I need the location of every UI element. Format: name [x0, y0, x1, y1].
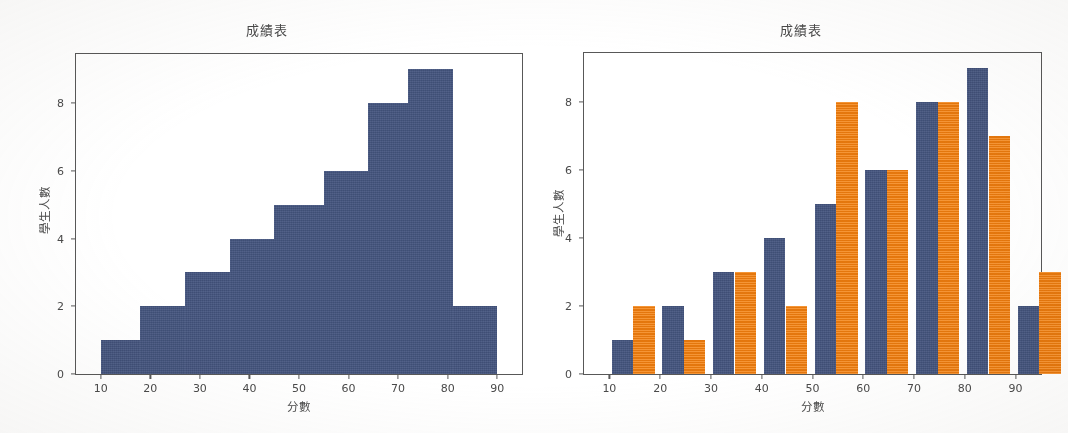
y-tick-mark [579, 373, 584, 374]
chart-panel-histogram: 成績表 學生人數 分數 10203040506070809002468 [0, 0, 534, 433]
x-tick-mark [812, 374, 813, 379]
histogram-bar-2 [185, 272, 230, 374]
x-tick-mark [660, 374, 661, 379]
histogram-bar-8 [453, 306, 498, 374]
x-tick-label: 40 [755, 382, 769, 395]
grouped-bar-series-blue-40 [764, 238, 785, 374]
x-tick-mark [298, 374, 299, 379]
plot-inner-right: 10203040506070809002468 [584, 53, 1041, 374]
x-tick-label: 70 [907, 382, 921, 395]
grouped-bar-series-orange-30 [735, 272, 756, 374]
histogram-bar-6 [368, 103, 408, 374]
grouped-bar-series-blue-30 [713, 272, 734, 374]
plot-area-right: 10203040506070809002468 [583, 52, 1042, 375]
y-tick-label: 4 [565, 232, 572, 245]
histogram-bar-1 [140, 306, 185, 374]
y-axis-label-right: 學生人數 [550, 163, 566, 263]
y-tick-mark [71, 170, 76, 171]
x-tick-label: 50 [806, 382, 820, 395]
x-tick-label: 30 [193, 382, 207, 395]
grouped-bar-series-orange-40 [786, 306, 807, 374]
grouped-bar-series-blue-90 [1018, 306, 1039, 374]
x-tick-mark [964, 374, 965, 379]
y-tick-label: 6 [565, 164, 572, 177]
x-tick-mark [609, 374, 610, 379]
grouped-bar-series-orange-90 [1039, 272, 1060, 374]
x-tick-label: 10 [94, 382, 108, 395]
x-tick-label: 50 [292, 382, 306, 395]
y-tick-mark [71, 373, 76, 374]
x-tick-label: 20 [143, 382, 157, 395]
x-tick-mark [710, 374, 711, 379]
x-tick-label: 90 [1009, 382, 1023, 395]
x-tick-mark [1015, 374, 1016, 379]
x-tick-label: 80 [441, 382, 455, 395]
histogram-bar-4 [274, 205, 324, 374]
page-title-right: 成績表 [534, 20, 1068, 39]
histogram-bar-0 [101, 340, 141, 374]
x-tick-mark [863, 374, 864, 379]
y-tick-label: 4 [57, 232, 64, 245]
x-tick-label: 60 [342, 382, 356, 395]
y-axis-label-left: 學生人數 [36, 160, 52, 260]
histogram-bar-3 [230, 239, 275, 374]
x-tick-label: 20 [653, 382, 667, 395]
x-tick-mark [398, 374, 399, 379]
y-tick-label: 2 [565, 300, 572, 313]
y-tick-mark [579, 170, 584, 171]
y-tick-label: 2 [57, 300, 64, 313]
y-tick-label: 6 [57, 164, 64, 177]
figure: 成績表 學生人數 分數 10203040506070809002468 成績表 … [0, 0, 1068, 433]
grouped-bar-series-blue-10 [612, 340, 633, 374]
page-title-left: 成績表 [0, 20, 534, 39]
x-tick-label: 80 [958, 382, 972, 395]
grouped-bar-series-orange-60 [887, 170, 908, 374]
histogram-bar-7 [408, 69, 453, 374]
grouped-bar-series-blue-70 [916, 102, 937, 374]
grouped-bar-series-orange-70 [938, 102, 959, 374]
x-tick-mark [199, 374, 200, 379]
x-axis-label-right: 分數 [583, 398, 1042, 414]
y-tick-mark [71, 238, 76, 239]
y-tick-label: 0 [57, 368, 64, 381]
grouped-bar-series-blue-80 [967, 68, 988, 374]
y-tick-mark [579, 305, 584, 306]
plot-inner-left: 10203040506070809002468 [76, 54, 522, 374]
grouped-bar-series-blue-20 [662, 306, 683, 374]
histogram-bar-5 [324, 171, 369, 374]
y-tick-label: 0 [565, 368, 572, 381]
y-tick-label: 8 [57, 97, 64, 110]
grouped-bar-series-blue-60 [865, 170, 886, 374]
y-tick-label: 8 [565, 96, 572, 109]
x-tick-mark [100, 374, 101, 379]
x-tick-label: 10 [602, 382, 616, 395]
chart-panel-grouped: 成績表 學生人數 分數 10203040506070809002468 [534, 0, 1068, 433]
x-tick-label: 40 [242, 382, 256, 395]
x-tick-mark [761, 374, 762, 379]
grouped-bar-series-orange-50 [836, 102, 857, 374]
x-tick-mark [348, 374, 349, 379]
plot-area-left: 10203040506070809002468 [75, 53, 523, 375]
x-tick-label: 30 [704, 382, 718, 395]
x-tick-mark [447, 374, 448, 379]
x-tick-label: 90 [490, 382, 504, 395]
x-tick-label: 70 [391, 382, 405, 395]
x-tick-mark [497, 374, 498, 379]
grouped-bar-series-orange-20 [684, 340, 705, 374]
y-tick-mark [71, 306, 76, 307]
grouped-bar-series-orange-10 [633, 306, 654, 374]
y-tick-mark [71, 103, 76, 104]
y-tick-mark [579, 238, 584, 239]
x-tick-mark [249, 374, 250, 379]
x-tick-mark [150, 374, 151, 379]
grouped-bar-series-orange-80 [989, 136, 1010, 374]
grouped-bar-series-blue-50 [815, 204, 836, 374]
y-tick-mark [579, 102, 584, 103]
x-tick-mark [913, 374, 914, 379]
x-tick-label: 60 [856, 382, 870, 395]
x-axis-label-left: 分數 [75, 398, 523, 414]
